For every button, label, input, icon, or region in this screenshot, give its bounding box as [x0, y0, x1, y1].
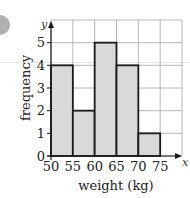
x-axis-label: weight (kg)	[78, 178, 153, 193]
y-tick-label: 5	[37, 35, 45, 50]
histogram-bar	[51, 65, 73, 156]
histogram-bar	[73, 111, 95, 156]
x-tick-label: 55	[65, 159, 82, 174]
x-tick-label: 65	[108, 159, 125, 174]
y-tick-label: 2	[37, 103, 45, 118]
y-axis-symbol: y	[40, 18, 48, 31]
x-tick-label: 50	[43, 159, 60, 174]
y-axis-arrow-icon	[48, 21, 54, 28]
x-tick-label: 60	[86, 159, 103, 174]
y-tick-label: 3	[37, 81, 45, 96]
x-axis-symbol: x	[182, 156, 189, 169]
y-tick-label: 4	[37, 58, 45, 73]
y-tick-label: 1	[37, 126, 45, 141]
bars	[51, 43, 160, 156]
histogram-bar	[138, 133, 160, 156]
histogram-chart: 012345505560657075 weight (kg) frequency…	[0, 0, 190, 198]
histogram-bar	[95, 43, 117, 156]
x-tick-label: 70	[130, 159, 147, 174]
histogram-bar	[117, 65, 139, 156]
y-axis-label: frequency	[18, 54, 33, 121]
x-axis-arrow-icon	[175, 153, 182, 159]
x-tick-label: 75	[152, 159, 169, 174]
